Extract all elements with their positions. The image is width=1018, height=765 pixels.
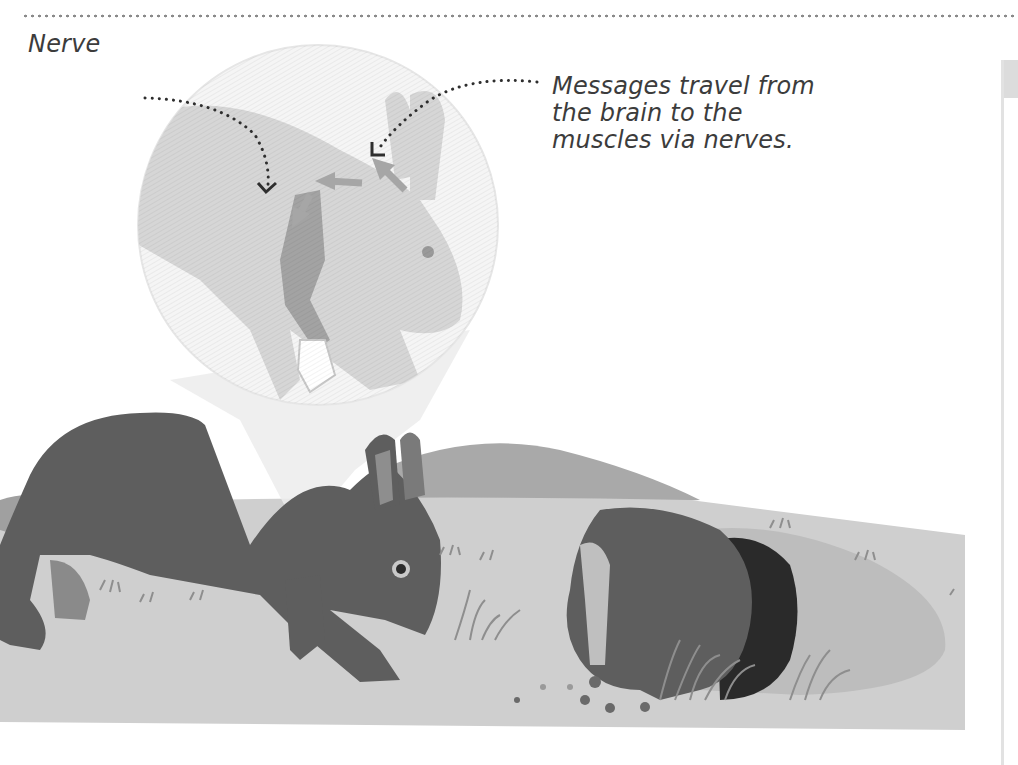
rabbit-eye (396, 564, 406, 574)
page-edge-bar (1001, 60, 1018, 765)
messages-caption-line-1: Messages travel from (552, 73, 852, 100)
messages-caption-line-2: the brain to the (552, 100, 852, 127)
page-edge-tab (1004, 60, 1018, 98)
messages-caption: Messages travel from the brain to the mu… (552, 73, 852, 154)
messages-caption-line-3: muscles via nerves. (552, 127, 852, 154)
nerve-label: Nerve (28, 31, 101, 58)
